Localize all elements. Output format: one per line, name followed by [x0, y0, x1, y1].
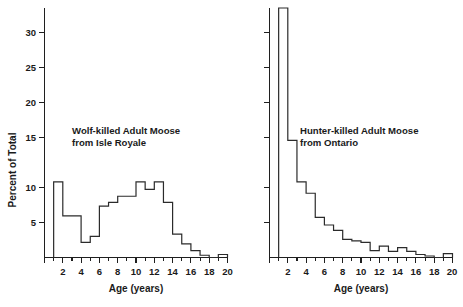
x-tick-label-12: 12 — [149, 266, 160, 277]
x-tick-label-18: 18 — [429, 266, 440, 277]
left-x-ticks — [45, 258, 228, 264]
histogram-figure: 30 25 20 15 10 5 Percent of Total — [0, 0, 463, 307]
panel-hunter-killed: 2 4 6 8 10 12 14 16 18 20 Age (years) Hu… — [264, 8, 457, 294]
right-y-ticks — [264, 33, 270, 223]
x-tick-label-6: 6 — [97, 266, 102, 277]
x-tick-label-8: 8 — [340, 266, 345, 277]
x-tick-label-14: 14 — [392, 266, 403, 277]
x-tick-label-6: 6 — [322, 266, 327, 277]
y-tick-label-30: 30 — [25, 27, 36, 38]
x-tick-label-4: 4 — [303, 266, 309, 277]
y-tick-label-20: 20 — [25, 97, 36, 108]
y-tick-label-5: 5 — [31, 217, 37, 228]
x-tick-label-10: 10 — [356, 266, 367, 277]
x-tick-label-20: 20 — [447, 266, 458, 277]
x-tick-label-20: 20 — [222, 266, 233, 277]
figure-container: 30 25 20 15 10 5 Percent of Total — [0, 0, 463, 307]
x-tick-label-2: 2 — [285, 266, 290, 277]
left-panel-annotation-line1: Wolf-killed Adult Moose — [72, 125, 180, 136]
left-histogram-outline — [54, 182, 228, 258]
x-tick-label-4: 4 — [78, 266, 84, 277]
left-x-axis-title: Age (years) — [109, 283, 163, 294]
left-panel-annotation-line2: from Isle Royale — [72, 137, 146, 148]
right-x-ticks — [270, 258, 453, 264]
right-x-tick-labels: 2 4 6 8 10 12 14 16 18 20 — [285, 266, 457, 277]
x-tick-label-16: 16 — [411, 266, 422, 277]
y-tick-label-10: 10 — [25, 182, 36, 193]
panel-wolf-killed: 30 25 20 15 10 5 Percent of Total — [7, 8, 233, 294]
x-tick-label-12: 12 — [374, 266, 385, 277]
x-tick-label-14: 14 — [167, 266, 178, 277]
left-y-axis-title: Percent of Total — [7, 132, 18, 207]
y-tick-label-25: 25 — [25, 62, 36, 73]
x-tick-label-2: 2 — [60, 266, 65, 277]
right-panel-annotation-line2: from Ontario — [300, 137, 358, 148]
x-tick-label-18: 18 — [204, 266, 215, 277]
x-tick-label-16: 16 — [186, 266, 197, 277]
left-y-ticks — [39, 33, 45, 223]
left-y-tick-labels: 30 25 20 15 10 5 — [25, 27, 36, 228]
right-panel-annotation-line1: Hunter-killed Adult Moose — [300, 125, 419, 136]
y-tick-label-15: 15 — [25, 132, 36, 143]
x-tick-label-8: 8 — [115, 266, 120, 277]
right-x-axis-title: Age (years) — [334, 283, 388, 294]
left-x-tick-labels: 2 4 6 8 10 12 14 16 18 20 — [60, 266, 233, 277]
x-tick-label-10: 10 — [131, 266, 142, 277]
